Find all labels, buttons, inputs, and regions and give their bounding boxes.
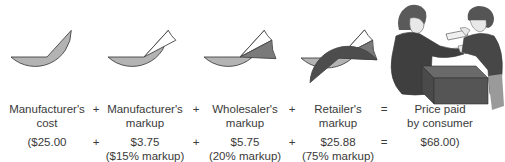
column-amount: $3.75 — [103, 135, 187, 149]
column-amount: $68.00) — [398, 135, 482, 149]
equals-sign: = — [378, 135, 390, 149]
column-title-line2: cost — [5, 116, 89, 130]
column-note: (75% markup) — [296, 149, 380, 162]
plus-sign: + — [286, 102, 298, 116]
column-title-line1: Manufacturer's — [5, 102, 89, 116]
column-manufacturer-cost: Manufacturer's cost ($25.00 — [5, 102, 89, 149]
column-title-line1: Wholesaler's — [203, 102, 287, 116]
column-amount: $5.75 — [203, 135, 287, 149]
column-title-line2: markup — [296, 116, 380, 130]
column-title-line2: markup — [103, 116, 187, 130]
plus-sign: + — [286, 135, 298, 149]
column-amount: $25.88 — [296, 135, 380, 149]
column-price-paid: Price paid by consumer $68.00) — [398, 102, 482, 149]
column-wholesaler-markup: Wholesaler's markup $5.75 (20% markup) — [203, 102, 287, 162]
plus-sign: + — [190, 135, 202, 149]
column-amount: ($25.00 — [5, 135, 89, 149]
equals-sign: = — [378, 102, 390, 116]
plus-sign: + — [90, 135, 102, 149]
counter-box — [422, 66, 488, 104]
column-retailer-markup: Retailer's markup $25.88 (75% markup) — [296, 102, 380, 162]
column-title-line2: markup — [203, 116, 287, 130]
column-note: (20% markup) — [203, 149, 287, 162]
column-title-line2: by consumer — [398, 116, 482, 130]
column-title-line1: Price paid — [398, 102, 482, 116]
column-title-line1: Retailer's — [296, 102, 380, 116]
plus-sign: + — [190, 102, 202, 116]
column-title-line1: Manufacturer's — [103, 102, 187, 116]
column-manufacturer-markup: Manufacturer's markup $3.75 ($15% markup… — [103, 102, 187, 162]
plus-sign: + — [90, 102, 102, 116]
column-note: ($15% markup) — [103, 149, 187, 162]
price-markup-diagram: Manufacturer's cost ($25.00 Manufacturer… — [0, 0, 505, 162]
